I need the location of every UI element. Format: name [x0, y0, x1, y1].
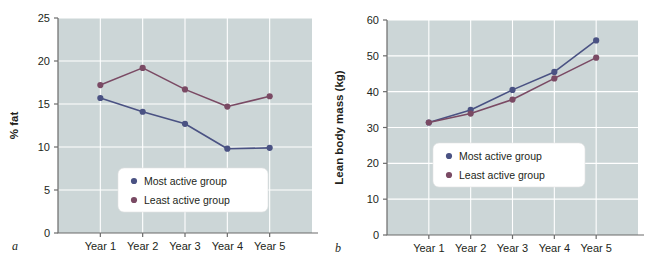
panel-letter: a	[12, 239, 18, 253]
y-tick-label: 10	[38, 141, 50, 153]
data-point	[267, 145, 273, 151]
data-point	[593, 37, 599, 43]
legend-label: Least active group	[459, 169, 545, 181]
y-tick-label: 5	[44, 184, 50, 196]
data-point	[267, 93, 273, 99]
x-axis-ticks: Year 1Year 2Year 3Year 4Year 5	[85, 233, 286, 252]
y-tick-label: 20	[38, 55, 50, 67]
data-point	[509, 96, 515, 102]
y-tick-label: 20	[367, 157, 379, 169]
data-point	[140, 65, 146, 71]
data-point	[182, 121, 188, 127]
data-point	[593, 55, 599, 61]
y-axis-title: Lean body mass (kg)	[333, 70, 345, 185]
data-point	[509, 87, 515, 93]
legend-marker	[131, 197, 137, 203]
x-tick-label: Year 1	[85, 240, 116, 252]
y-axis-title: % fat	[8, 112, 20, 140]
y-tick-label: 15	[38, 98, 50, 110]
chart-a: 0510152025Year 1Year 2Year 3Year 4Year 5…	[0, 0, 325, 269]
y-axis-ticks: 0102030405060	[367, 14, 387, 241]
y-tick-label: 10	[367, 193, 379, 205]
panel-letter: b	[335, 241, 341, 255]
x-tick-label: Year 3	[169, 240, 200, 252]
legend-marker	[131, 178, 137, 184]
x-axis-ticks: Year 1Year 2Year 3Year 4Year 5	[413, 235, 612, 254]
data-point	[97, 95, 103, 101]
legend: Most active groupLeast active group	[118, 168, 268, 212]
y-axis-ticks: 0510152025	[38, 12, 58, 239]
y-tick-label: 50	[367, 50, 379, 62]
legend-marker	[446, 172, 452, 178]
y-tick-label: 40	[367, 86, 379, 98]
legend-marker	[446, 153, 452, 159]
data-point	[224, 146, 230, 152]
chart-b: 0102030405060Year 1Year 2Year 3Year 4Yea…	[325, 0, 649, 269]
x-tick-label: Year 5	[580, 242, 611, 254]
panel-b: 0102030405060Year 1Year 2Year 3Year 4Yea…	[325, 0, 649, 269]
legend-label: Least active group	[144, 194, 230, 206]
data-point	[140, 109, 146, 115]
data-point	[97, 82, 103, 88]
data-point	[224, 103, 230, 109]
y-tick-label: 0	[373, 229, 379, 241]
data-point	[182, 86, 188, 92]
data-point	[426, 119, 432, 125]
data-point	[468, 110, 474, 116]
figure-two-panel-line-charts: 0510152025Year 1Year 2Year 3Year 4Year 5…	[0, 0, 649, 269]
y-tick-label: 60	[367, 14, 379, 26]
x-tick-label: Year 2	[455, 242, 486, 254]
x-tick-label: Year 4	[539, 242, 570, 254]
legend: Most active groupLeast active group	[433, 143, 585, 187]
data-point	[551, 69, 557, 75]
x-tick-label: Year 5	[254, 240, 285, 252]
panel-a: 0510152025Year 1Year 2Year 3Year 4Year 5…	[0, 0, 325, 269]
y-tick-label: 30	[367, 122, 379, 134]
legend-label: Most active group	[144, 175, 227, 187]
y-tick-label: 25	[38, 12, 50, 24]
x-tick-label: Year 4	[212, 240, 243, 252]
legend-label: Most active group	[459, 150, 542, 162]
x-tick-label: Year 3	[497, 242, 528, 254]
y-tick-label: 0	[44, 227, 50, 239]
x-tick-label: Year 2	[127, 240, 158, 252]
x-tick-label: Year 1	[413, 242, 444, 254]
data-point	[551, 75, 557, 81]
